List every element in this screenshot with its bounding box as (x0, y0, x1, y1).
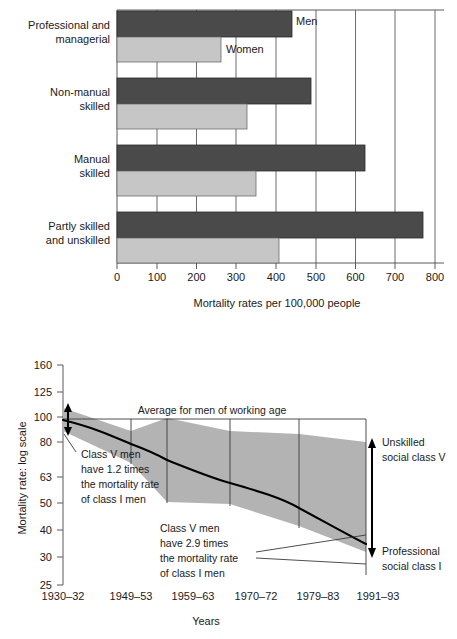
legend-label-men: Men (296, 15, 317, 27)
bar-men-manual (117, 145, 365, 171)
x-tick-label-300: 300 (227, 271, 245, 283)
note1-line3: the mortality rate (81, 478, 159, 490)
line-chart-y-tick-labels: 160 125 100 80 63 50 40 30 25 (34, 359, 52, 591)
bar-chart-x-axis-title: Mortality rates per 100,000 people (194, 297, 361, 309)
bar-chart-svg: Men Women Professional and managerial No… (0, 0, 457, 320)
x-tick-label-800: 800 (426, 271, 444, 283)
line-chart-x-tick-labels: 1930–32 1949–53 1959–63 1970–72 1979–83 … (42, 590, 400, 602)
x-period-label-1930: 1930–32 (42, 590, 85, 602)
note1-line4: of class I men (81, 493, 146, 505)
x-period-label-1949: 1949–53 (110, 590, 153, 602)
cat-label-professional-line1: Professional and (28, 19, 110, 31)
ratio-arrow-1991 (368, 438, 376, 558)
legend-label-women: Women (226, 43, 264, 55)
line-chart-svg: 160 125 100 80 63 50 40 30 25 Mortality … (0, 330, 457, 639)
bar-men-non-manual (117, 78, 311, 104)
y-tick-label-125: 125 (34, 386, 52, 398)
x-tick-marks (117, 263, 435, 269)
note2-line4: of class I men (160, 567, 225, 579)
cat-label-professional-line2: managerial (56, 33, 110, 45)
x-tick-labels: 0 100 200 300 400 500 600 700 800 (114, 271, 444, 283)
x-tick-label-500: 500 (307, 271, 325, 283)
y-tick-label-160: 160 (34, 359, 52, 371)
x-period-label-1959: 1959–63 (172, 590, 215, 602)
category-labels: Professional and managerial Non-manual s… (28, 19, 110, 246)
cat-label-non-manual-line2: skilled (79, 100, 110, 112)
x-period-label-1970: 1970–72 (235, 590, 278, 602)
cat-label-partly-skilled-line1: Partly skilled (48, 220, 110, 232)
bar-women-manual (117, 171, 256, 196)
cat-label-manual-line1: Manual (74, 153, 110, 165)
line-chart-x-axis-title: Years (192, 615, 220, 627)
bar-women-non-manual (117, 104, 247, 129)
bar-men-professional (117, 11, 292, 37)
y-tick-label-30: 30 (40, 551, 52, 563)
y-tick-label-80: 80 (40, 436, 52, 448)
note2-line2: have 2.9 times (160, 537, 228, 549)
class-i-line1: Professional (382, 545, 440, 557)
note2-leader-line-lower (256, 558, 366, 564)
y-tick-label-40: 40 (40, 524, 52, 536)
note1-leader-line (64, 434, 76, 452)
cat-label-non-manual-line1: Non-manual (50, 86, 110, 98)
class-v-label: Unskilled social class V (382, 436, 446, 463)
bar-chart-figure: Men Women Professional and managerial No… (0, 0, 457, 320)
bar-women-professional (117, 37, 221, 62)
note1-line2: have 1.2 times (81, 463, 149, 475)
class-v-line1: Unskilled (382, 436, 425, 448)
y-tick-label-50: 50 (40, 497, 52, 509)
y-tick-label-100: 100 (34, 411, 52, 423)
bar-women-partly-skilled (117, 238, 279, 263)
cat-label-partly-skilled-line2: and unskilled (46, 234, 110, 246)
note2-line3: the mortality rate (160, 552, 238, 564)
bar-men-partly-skilled (117, 212, 423, 238)
average-line-label: Average for men of working age (138, 404, 287, 416)
ratio-note-1991: Class V men have 2.9 times the mortality… (160, 522, 238, 579)
note2-line1: Class V men (160, 522, 220, 534)
cat-label-manual-line2: skilled (79, 167, 110, 179)
line-chart-y-ticks (57, 365, 63, 585)
x-tick-label-700: 700 (386, 271, 404, 283)
x-tick-label-0: 0 (114, 271, 120, 283)
class-v-line2: social class V (382, 451, 446, 463)
x-period-label-1991: 1991–93 (357, 590, 400, 602)
y-tick-label-63: 63 (40, 471, 52, 483)
figure-page: Men Women Professional and managerial No… (0, 0, 457, 639)
x-tick-label-100: 100 (148, 271, 166, 283)
note1-line1: Class V men (81, 448, 141, 460)
class-i-label: Professional social class I (382, 545, 442, 572)
x-tick-label-400: 400 (267, 271, 285, 283)
x-tick-label-600: 600 (346, 271, 364, 283)
x-period-label-1979: 1979–83 (297, 590, 340, 602)
line-chart-y-axis-title: Mortality rate: log scale (16, 421, 28, 534)
line-chart-figure: 160 125 100 80 63 50 40 30 25 Mortality … (0, 330, 457, 639)
x-tick-label-200: 200 (187, 271, 205, 283)
class-i-line2: social class I (382, 560, 442, 572)
